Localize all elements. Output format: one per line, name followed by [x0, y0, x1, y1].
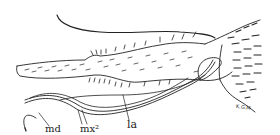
mouthparts-figure: md mx² la K.G.M. — [0, 0, 280, 135]
label-md: md — [45, 124, 61, 134]
label-mx2: mx² — [80, 124, 99, 134]
label-la: la — [127, 120, 137, 130]
mouthparts-drawing — [0, 0, 280, 135]
